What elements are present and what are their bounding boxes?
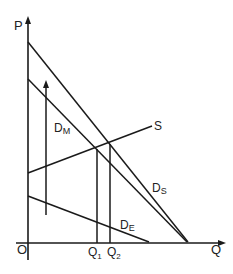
demand-market-curve [28, 79, 187, 242]
origin-label: O [17, 242, 27, 257]
x-axis-label: Q [211, 242, 221, 257]
q2-label: Q2 [107, 245, 121, 261]
supply-label: S [154, 119, 162, 133]
q1-label: Q1 [88, 245, 102, 261]
demand-market-label: DM [54, 121, 70, 136]
demand-total-label: DS [152, 181, 167, 196]
demand-export-label: DE [120, 218, 135, 233]
y-axis-label: P [14, 18, 23, 33]
diagram-canvas: P Q O DM S DS DE Q1 Q2 [0, 0, 233, 274]
